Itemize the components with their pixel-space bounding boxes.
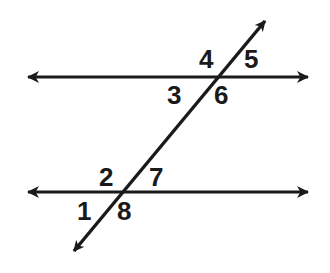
angle-label-7: 7 — [149, 164, 163, 190]
angle-label-5: 5 — [244, 46, 258, 72]
angle-label-8: 8 — [117, 198, 131, 224]
angle-label-2: 2 — [99, 164, 113, 190]
transversal-line — [74, 21, 265, 251]
angle-label-1: 1 — [77, 198, 91, 224]
geometry-diagram: 1 2 3 4 5 6 7 8 — [0, 0, 330, 273]
angle-label-4: 4 — [199, 46, 213, 72]
angle-label-3: 3 — [167, 82, 181, 108]
angle-label-6: 6 — [214, 82, 228, 108]
geometry-canvas — [0, 0, 330, 273]
